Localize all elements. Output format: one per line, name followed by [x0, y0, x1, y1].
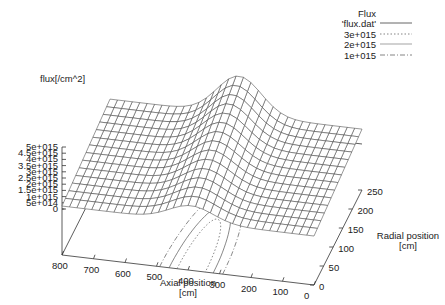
legend-entry-1e15: 1e+015 [296, 50, 376, 61]
x-tick-label: 600 [115, 269, 131, 279]
x-tick-label: 0 [304, 291, 309, 301]
x-tick-label: 200 [241, 284, 257, 294]
z-tick-label: 0 [2, 204, 58, 214]
z-axis-label: flux[/cm^2] [40, 74, 85, 84]
y-tick-label: 0 [319, 282, 324, 292]
x-tick-label: 100 [273, 287, 289, 297]
y-axis-label-line2: [cm] [370, 241, 445, 251]
legend-entry-surface: 'flux.dat' [296, 18, 376, 29]
y-tick-label: 250 [367, 187, 383, 197]
x-axis-label-line2: [cm] [148, 288, 228, 298]
legend-entry-2e15: 2e+015 [296, 39, 376, 50]
y-tick-label: 150 [348, 225, 364, 235]
surface-mesh [62, 76, 362, 236]
y-tick-label: 50 [329, 263, 340, 273]
contour-line [177, 219, 221, 272]
y-tick-label: 200 [357, 206, 373, 216]
x-tick-label: 800 [52, 261, 68, 271]
x-tick-label: 700 [84, 265, 100, 275]
y-tick-label: 100 [338, 244, 354, 254]
